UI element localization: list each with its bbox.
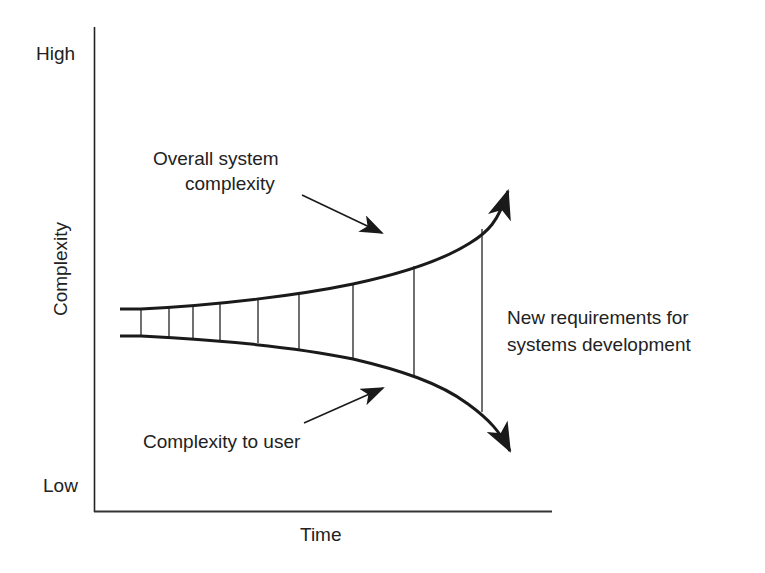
overall-complexity-label-line2: complexity [185,173,275,195]
y-axis-high-label: High [36,43,75,65]
x-axis-title: Time [300,524,342,546]
overall-complexity-label-line1: Overall system [153,148,279,170]
user-complexity-pointer-arrow [304,388,383,423]
new-requirements-label-line1: New requirements for [507,307,689,329]
new-requirements-label-line2: systems development [507,334,691,356]
diagram-canvas [0,0,765,573]
y-axis-low-label: Low [43,475,78,497]
overall-complexity-curve [120,191,508,309]
user-complexity-label: Complexity to user [143,431,300,453]
y-axis-title: Complexity [50,217,72,321]
overall-complexity-pointer-arrow [302,195,382,233]
